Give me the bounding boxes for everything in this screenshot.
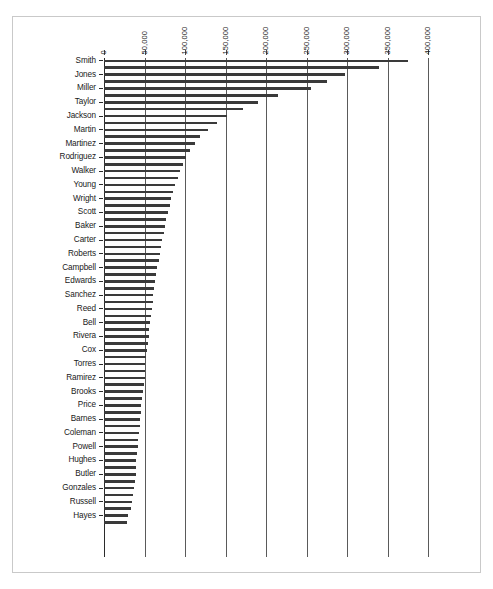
bar: [104, 156, 186, 159]
bar: [104, 115, 227, 118]
bar: [104, 425, 140, 428]
axis-tick-label-250000: 250,000: [302, 27, 310, 55]
bar-row: Baker: [13, 223, 480, 230]
bar: [104, 253, 160, 256]
category-label-young: Young: [74, 181, 96, 189]
bar: [104, 66, 379, 69]
category-label-reed: Reed: [77, 305, 96, 313]
bar-row: Price: [13, 403, 480, 410]
bar: [104, 259, 159, 262]
category-tick: [99, 432, 103, 433]
category-tick: [99, 60, 103, 61]
category-tick: [99, 88, 103, 89]
plot-area: 050,000100,000150,000200,000250,000300,0…: [13, 17, 480, 572]
bar-row: Martin: [13, 127, 480, 134]
bar: [104, 218, 166, 221]
category-tick: [99, 212, 103, 213]
bar-row: Miller: [13, 86, 480, 93]
category-tick: [99, 102, 103, 103]
bar: [104, 280, 155, 283]
bar: [104, 184, 175, 187]
bar: [104, 432, 139, 435]
bar: [104, 315, 151, 318]
axis-tick-label-50000: 50,000: [140, 31, 148, 55]
bar-row: Martinez: [13, 141, 480, 148]
category-label-rivera: Rivera: [73, 332, 96, 340]
bar: [104, 514, 128, 517]
category-label-hayes: Hayes: [73, 512, 96, 520]
bar-row: Hughes: [13, 458, 480, 465]
bar-row: Powell: [13, 444, 480, 451]
bar: [104, 501, 132, 504]
bar: [104, 418, 140, 421]
category-label-campbell: Campbell: [62, 264, 96, 272]
bar: [104, 273, 156, 276]
bar: [104, 466, 136, 469]
axis-tick-label-400000: 400,000: [424, 27, 432, 55]
bar: [104, 439, 138, 442]
bar: [104, 225, 165, 228]
category-label-russell: Russell: [70, 498, 96, 506]
bar-row: Rodriguez: [13, 154, 480, 161]
bar: [104, 342, 148, 345]
category-tick: [99, 281, 103, 282]
bar-row: Ramirez: [13, 375, 480, 382]
bar-row: Russell: [13, 499, 480, 506]
bar: [104, 349, 147, 352]
category-label-carter: Carter: [74, 236, 96, 244]
bar-row: Bell: [13, 320, 480, 327]
category-tick: [99, 405, 103, 406]
bar-row: Butler: [13, 471, 480, 478]
axis-tick-label-100000: 100,000: [181, 27, 189, 55]
category-label-torres: Torres: [74, 360, 96, 368]
bar: [104, 232, 164, 235]
category-tick: [99, 460, 103, 461]
category-tick: [99, 74, 103, 75]
category-tick: [99, 143, 103, 144]
bar-row: Hayes: [13, 513, 480, 520]
category-label-scott: Scott: [78, 208, 96, 216]
bar-row: Campbell: [13, 265, 480, 272]
bar-row: Wright: [13, 196, 480, 203]
category-label-miller: Miller: [77, 84, 96, 92]
category-label-gonzales: Gonzales: [62, 484, 96, 492]
bar: [104, 122, 217, 125]
bar-row: Brooks: [13, 389, 480, 396]
bar-row: Roberts: [13, 251, 480, 258]
bar: [104, 411, 141, 414]
bar: [104, 80, 327, 83]
category-tick: [99, 184, 103, 185]
bar: [104, 390, 143, 393]
category-label-ramirez: Ramirez: [66, 374, 96, 382]
axis-tick-label-300000: 300,000: [343, 27, 351, 55]
category-label-baker: Baker: [75, 222, 96, 230]
bar: [104, 197, 171, 200]
category-label-jackson: Jackson: [67, 112, 96, 120]
bar: [104, 266, 157, 269]
category-tick: [99, 350, 103, 351]
category-label-sanchez: Sanchez: [65, 291, 96, 299]
category-tick: [99, 308, 103, 309]
bar: [104, 170, 180, 173]
category-tick: [99, 488, 103, 489]
category-label-wright: Wright: [73, 195, 96, 203]
category-tick: [99, 515, 103, 516]
axis-tick-label-350000: 350,000: [383, 27, 391, 55]
bar-row: Gonzales: [13, 485, 480, 492]
bar-row: Barnes: [13, 416, 480, 423]
category-tick: [99, 157, 103, 158]
bar-row: Cox: [13, 347, 480, 354]
bar-row: Coleman: [13, 430, 480, 437]
category-tick: [99, 116, 103, 117]
category-label-barnes: Barnes: [71, 415, 96, 423]
category-label-coleman: Coleman: [64, 429, 96, 437]
bar-rows: SmithJonesMillerTaylorJacksonMartinMarti…: [13, 58, 480, 527]
bar-row: [13, 520, 480, 527]
bar: [104, 177, 178, 180]
bar: [104, 204, 170, 207]
category-tick: [99, 474, 103, 475]
category-label-martinez: Martinez: [65, 140, 96, 148]
bar: [104, 335, 149, 338]
chart-frame: 050,000100,000150,000200,000250,000300,0…: [12, 16, 481, 573]
axis-tick-label-150000: 150,000: [221, 27, 229, 55]
